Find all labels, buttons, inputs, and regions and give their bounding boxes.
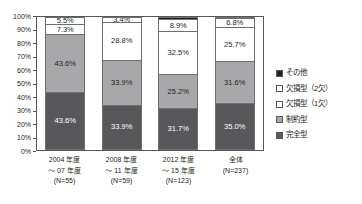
segment-value-label: 32.5% — [168, 49, 189, 57]
legend-item[interactable]: 欠損型（1欠） — [276, 99, 362, 109]
legend-swatch-icon — [276, 132, 283, 139]
bar-stack: 8.9%32.5%25.2%31.7% — [158, 17, 198, 150]
x-axis-label-line: (N=237) — [199, 166, 273, 177]
y-axis-tick-label: 0% — [21, 148, 31, 155]
legend-swatch-icon — [276, 70, 283, 77]
segment-value-label: 43.6% — [55, 60, 76, 68]
segment-value-label: 6.8% — [226, 19, 243, 27]
bar-segment: 32.5% — [158, 31, 198, 74]
legend-item-label: 欠損型（2欠） — [286, 85, 332, 93]
segment-value-label: 31.7% — [168, 125, 189, 133]
bar-stack: 5.5%7.3%43.6%43.6% — [45, 17, 85, 150]
y-axis-tick-label: 10% — [17, 134, 31, 141]
bar-segment: 33.9% — [102, 60, 142, 105]
legend-swatch-icon — [276, 116, 283, 123]
legend-item-label: 制約型 — [286, 116, 307, 124]
stacked-bar-chart: 0%10%20%30%40%50%60%70%80%90%100% 5.5%7.… — [0, 12, 362, 204]
x-axis-label-line: 全体 — [199, 155, 273, 166]
legend-item[interactable]: 制約型 — [276, 115, 362, 125]
bar-segment: 25.7% — [215, 27, 255, 61]
segment-value-label: 43.6% — [55, 117, 76, 125]
bar-stack: 6.8%25.7%31.6%35.0% — [215, 17, 255, 150]
bar-segment: 43.6% — [45, 92, 85, 150]
segment-value-label: 25.2% — [168, 88, 189, 96]
legend-item-label: その他 — [286, 69, 307, 77]
bar-segment: 28.8% — [102, 22, 142, 60]
legend-item[interactable]: その他 — [276, 68, 362, 78]
y-axis-tick-label: 30% — [17, 107, 31, 114]
bar-segment: 31.6% — [215, 61, 255, 103]
y-axis-tick-label: 80% — [17, 40, 31, 47]
bar-segment: 43.6% — [45, 34, 85, 92]
legend-item-label: 欠損型（1欠） — [286, 100, 332, 108]
legend-item[interactable]: 欠損型（2欠） — [276, 84, 362, 94]
y-axis: 0%10%20%30%40%50%60%70%80%90%100% — [0, 16, 36, 151]
bar-segment: 31.7% — [158, 108, 198, 150]
bar-segment: 35.0% — [215, 103, 255, 150]
legend-swatch-icon — [276, 101, 283, 108]
y-axis-tick-label: 100% — [13, 13, 31, 20]
bar-segment: 8.9% — [158, 19, 198, 31]
legend-swatch-icon — [276, 85, 283, 92]
segment-value-label: 7.3% — [57, 26, 74, 34]
bar-segment: 6.8% — [215, 18, 255, 27]
y-axis-tick-label: 20% — [17, 121, 31, 128]
segment-value-label: 25.7% — [224, 41, 245, 49]
segment-value-label: 28.8% — [111, 37, 132, 45]
y-axis-tick-label: 50% — [17, 80, 31, 87]
legend-item-label: 完全型 — [286, 131, 307, 139]
segment-value-label: 33.9% — [111, 123, 132, 131]
x-axis-category-label: 全体(N=237) — [199, 155, 273, 176]
y-axis-tick-label: 60% — [17, 67, 31, 74]
bar-segment: 5.5% — [45, 17, 85, 24]
y-axis-tick-label: 70% — [17, 53, 31, 60]
bar-segment: 33.9% — [102, 105, 142, 150]
legend-item[interactable]: 完全型 — [276, 130, 362, 140]
plot-area: 5.5%7.3%43.6%43.6%3.4%28.8%33.9%33.9%8.9… — [36, 16, 264, 151]
segment-value-label: 33.9% — [111, 79, 132, 87]
bar-stack: 3.4%28.8%33.9%33.9% — [102, 17, 142, 150]
segment-value-label: 5.5% — [57, 17, 74, 24]
x-axis: 2004 年度～ 07 年度(N=55)2008 年度～ 11 年度(N=59)… — [36, 153, 264, 201]
x-axis-label-line: (N=123) — [142, 176, 216, 187]
chart-legend: その他欠損型（2欠）欠損型（1欠）制約型完全型 — [276, 68, 362, 146]
y-axis-tick-label: 40% — [17, 94, 31, 101]
bar-segment: 7.3% — [45, 24, 85, 34]
segment-value-label: 35.0% — [224, 123, 245, 131]
y-axis-tick-mark — [33, 151, 36, 152]
y-axis-tick-label: 90% — [17, 26, 31, 33]
segment-value-label: 8.9% — [170, 22, 187, 30]
segment-value-label: 31.6% — [224, 79, 245, 87]
bar-segment: 25.2% — [158, 74, 198, 108]
cropped-header-text — [0, 0, 362, 12]
